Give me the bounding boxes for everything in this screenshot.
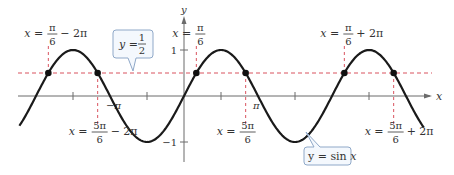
- svg-text:π: π: [49, 22, 56, 33]
- svg-text:6: 6: [392, 134, 398, 145]
- intersection-point: [193, 70, 200, 77]
- intersection-point: [390, 70, 397, 77]
- svg-text:5π: 5π: [241, 120, 254, 131]
- x-axis: x: [18, 90, 443, 103]
- intersection-point: [94, 70, 101, 77]
- callout-line-den: 2: [139, 45, 145, 56]
- svg-text:6: 6: [345, 36, 351, 47]
- svg-text:6: 6: [197, 36, 203, 47]
- svg-text:6: 6: [49, 36, 55, 47]
- svg-text:π: π: [197, 22, 204, 33]
- x-value-annotation: x =π6: [172, 22, 205, 47]
- y-axis-label: y: [180, 4, 187, 15]
- x-tick-label: π: [252, 100, 260, 111]
- x-axis-arrow-icon: [424, 94, 432, 99]
- sine-graph: x y −ππ 1−1 y = 1 2 y = sin x x =π6− 2πx…: [0, 0, 454, 175]
- callout-curve-label: y = sin x: [304, 132, 357, 165]
- svg-text:x =: x =: [365, 125, 384, 138]
- svg-text:5π: 5π: [93, 120, 106, 131]
- callout-line-num: 1: [139, 32, 145, 43]
- vertical-dashed-lines: [48, 46, 393, 124]
- svg-text:5π: 5π: [389, 120, 402, 131]
- svg-text:6: 6: [244, 134, 250, 145]
- callout-line-lhs: y =: [118, 38, 138, 51]
- y-tick-label: −1: [162, 137, 177, 148]
- x-value-annotation: x =π6+ 2π: [320, 22, 383, 47]
- callout-curve-text: y = sin x: [307, 150, 357, 163]
- svg-text:− 2π: − 2π: [60, 27, 87, 40]
- svg-text:x =: x =: [172, 27, 191, 40]
- svg-text:x =: x =: [217, 125, 236, 138]
- intersection-point: [242, 70, 249, 77]
- svg-text:π: π: [345, 22, 352, 33]
- svg-text:− 2π: − 2π: [111, 125, 138, 138]
- intersection-point: [341, 70, 348, 77]
- x-value-annotation: x =5π6: [217, 120, 256, 145]
- intersection-point: [45, 70, 52, 77]
- svg-text:x =: x =: [320, 27, 339, 40]
- svg-text:x =: x =: [24, 27, 43, 40]
- svg-text:x =: x =: [69, 125, 88, 138]
- y-tick-label: 1: [171, 45, 177, 56]
- x-axis-label: x: [436, 90, 443, 103]
- callout-line-label: y = 1 2: [113, 30, 153, 71]
- y-axis-arrow-icon: [182, 16, 187, 24]
- svg-text:+ 2π: + 2π: [356, 27, 383, 40]
- svg-text:+ 2π: + 2π: [407, 125, 434, 138]
- x-value-annotation: x =5π6+ 2π: [365, 120, 434, 145]
- x-value-annotation: x =π6− 2π: [24, 22, 87, 47]
- svg-text:6: 6: [96, 134, 102, 145]
- annotations: x =π6− 2πx =π6x =π6+ 2πx =5π6− 2πx =5π6x…: [24, 22, 433, 145]
- x-value-annotation: x =5π6− 2π: [69, 120, 138, 145]
